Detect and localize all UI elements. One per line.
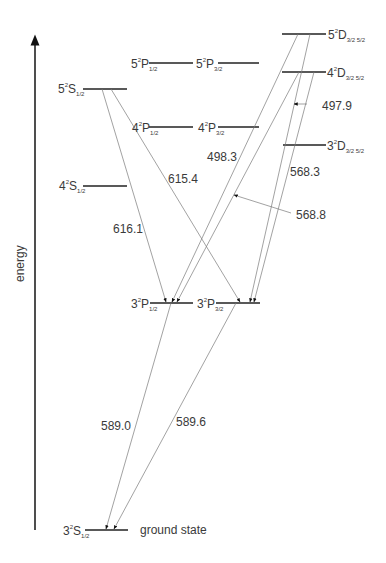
label-3P32: 32P3/2: [197, 297, 223, 312]
label-5P12: 52P1/2: [131, 57, 157, 72]
transition-589-6: [114, 303, 236, 529]
wavelength-498-3: 498.3: [207, 151, 237, 163]
label-4P12: 42P1/2: [132, 121, 158, 136]
transition-568-3: [254, 72, 314, 302]
label-5S: 52S1/2: [58, 82, 84, 97]
label-4D: 42D3/2 5/2: [327, 66, 364, 81]
label-3P12: 32P1/2: [131, 297, 157, 312]
label-3D: 32D3/2 5/2: [327, 139, 364, 154]
transition-589-0: [106, 303, 171, 529]
label-4P32: 42P3/2: [198, 121, 224, 136]
wavelength-615-4: 615.4: [168, 173, 198, 185]
wavelength-568-3: 568.3: [290, 166, 320, 178]
wavelength-568-8: 568.8: [296, 209, 326, 221]
energy-axis-label: energy: [13, 245, 27, 282]
transition-568-8: [177, 72, 299, 302]
label-5D: 52D3/2 5/2: [328, 28, 365, 43]
pointer-568-8: [234, 195, 291, 213]
label-5P32: 52P3/2: [196, 57, 222, 72]
wavelength-616-1: 616.1: [113, 223, 143, 235]
label-4S: 42S1/2: [59, 179, 85, 194]
ground-state-label: ground state: [140, 524, 207, 536]
wavelength-497-9: 497.9: [322, 100, 352, 112]
label-3S: 32S1/2: [63, 524, 89, 539]
wavelength-589-0: 589.0: [101, 420, 131, 432]
wavelength-589-6: 589.6: [176, 416, 206, 428]
transition-498-3: [172, 34, 298, 302]
